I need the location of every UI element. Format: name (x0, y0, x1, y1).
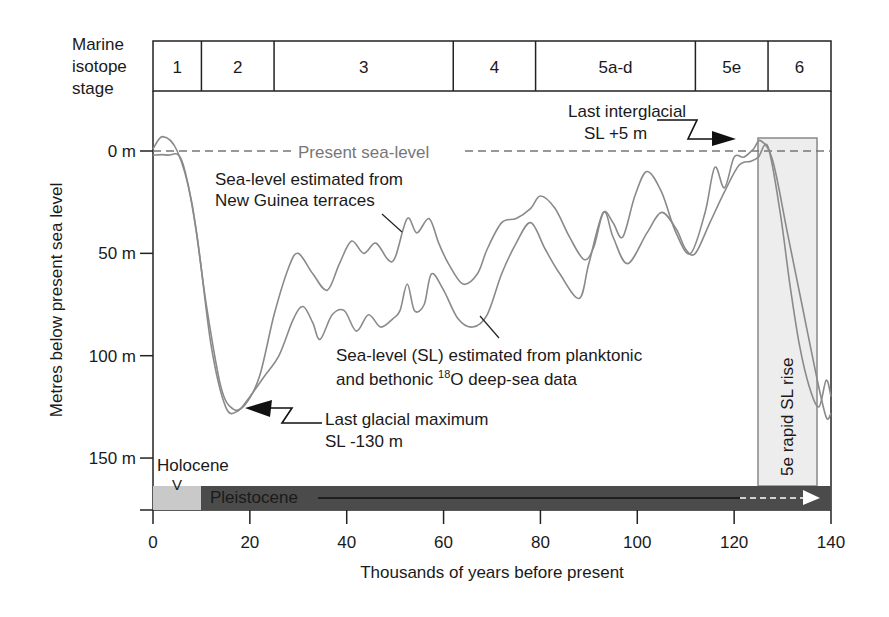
x-tick-label: 20 (240, 533, 259, 552)
x-axis-title: Thousands of years before present (360, 563, 624, 582)
y-tick-label: 0 m (108, 142, 136, 161)
lgm-arrow-icon (245, 400, 322, 423)
holocene-label: Holocene (157, 456, 229, 475)
y-axis-title: Metres below present sea level (47, 183, 66, 417)
stage-header-line-1: Marine (72, 35, 124, 54)
stage-label: 2 (233, 58, 242, 77)
plot-area: Present sea-level Pleistocene Holocene V… (140, 91, 831, 510)
stage-label: 5a-d (598, 58, 632, 77)
new-guinea-leader (382, 214, 402, 232)
y-tick-label: 50 m (98, 244, 136, 263)
rapid-rise-label: 5e rapid SL rise (778, 358, 797, 476)
deep-sea-label-2: and bethonic 18O deep-sea data (336, 368, 578, 389)
x-tick-label: 100 (623, 533, 651, 552)
sea-level-chart: Marine isotope stage 12345a-d5e6 Present… (0, 0, 889, 617)
lig-label-1: Last interglacial (568, 102, 686, 121)
lig-label-2: SL +5 m (584, 124, 647, 143)
present-sea-level-label: Present sea-level (298, 143, 429, 162)
y-tick-label: 100 m (89, 347, 136, 366)
lig-arrow-icon (657, 120, 736, 146)
stage-label: 3 (359, 58, 368, 77)
pleistocene-label: Pleistocene (210, 488, 298, 507)
lgm-label-1: Last glacial maximum (325, 410, 488, 429)
x-tick-label: 140 (817, 533, 845, 552)
stage-label: 4 (490, 58, 499, 77)
lgm-label-2: SL -130 m (325, 432, 403, 451)
stage-header-line-3: stage (72, 79, 114, 98)
x-tick-label: 120 (720, 533, 748, 552)
new-guinea-label-2: New Guinea terraces (215, 191, 375, 210)
isotope-stage-header: Marine isotope stage 12345a-d5e6 (72, 35, 831, 98)
deep-sea-label-1: Sea-level (SL) estimated from planktonic (336, 346, 643, 365)
new-guinea-label-1: Sea-level estimated from (215, 170, 403, 189)
deep-sea-leader (480, 316, 499, 338)
y-axis-ticks: 0 m50 m100 m150 m (89, 142, 153, 468)
x-tick-label: 60 (434, 533, 453, 552)
stage-label: 6 (795, 58, 804, 77)
stage-label: 1 (172, 58, 181, 77)
x-tick-label: 40 (337, 533, 356, 552)
holocene-marker: V (172, 476, 182, 493)
stage-label: 5e (722, 58, 741, 77)
x-tick-label: 80 (531, 533, 550, 552)
y-tick-label: 150 m (89, 449, 136, 468)
x-tick-label: 0 (148, 533, 157, 552)
x-axis-ticks: 020406080100120140 (148, 510, 845, 552)
stage-boxes: 12345a-d5e6 (153, 41, 831, 91)
stage-header-line-2: isotope (72, 57, 127, 76)
